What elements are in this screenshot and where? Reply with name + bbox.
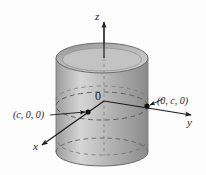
cylinder-coordinate-figure: z y x 0 (c, 0, 0) (0, c, 0) <box>0 0 206 175</box>
x-axis-label: x <box>33 141 38 152</box>
point-marker-y <box>144 103 149 108</box>
cylinder-body <box>56 58 148 166</box>
point-label-0-c-0: (0, c, 0) <box>157 96 188 106</box>
origin-label: 0 <box>95 90 101 102</box>
point-marker-x <box>85 109 90 114</box>
cylinder-top-ellipse <box>56 43 148 73</box>
cylinder-diagram-svg <box>0 0 206 175</box>
z-axis-label: z <box>95 11 99 22</box>
point-label-c-0-0: (c, 0, 0) <box>13 110 44 120</box>
y-axis-label: y <box>187 117 192 128</box>
